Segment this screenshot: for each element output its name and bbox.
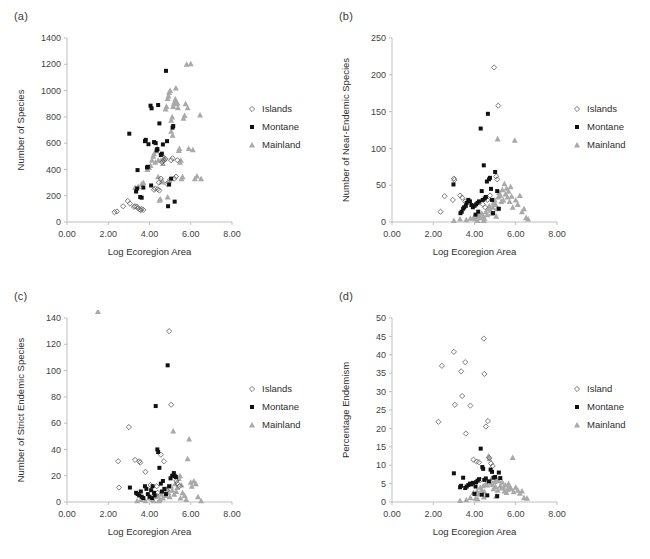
y-tick-label: 1000 — [41, 86, 61, 96]
data-point-mainland — [451, 218, 457, 224]
data-point-islands — [451, 349, 456, 354]
data-point-montane — [141, 496, 145, 500]
data-point-mainland — [506, 481, 512, 487]
y-tick-label: 100 — [371, 144, 386, 154]
legend-label-mainland: Mainland — [587, 139, 626, 150]
data-point-islands — [166, 329, 171, 334]
x-tick-label: 2.00 — [99, 229, 117, 239]
y-tick-label: 150 — [371, 107, 386, 117]
y-axis-title: Number of Near-Endemic Species — [340, 58, 351, 202]
y-tick-label: 40 — [51, 445, 61, 455]
x-tick-label: 8.00 — [223, 229, 241, 239]
y-axis-title: Percentage Endemism — [340, 362, 351, 458]
y-tick-label: 30 — [376, 387, 386, 397]
y-tick-label: 5 — [381, 479, 386, 489]
points-group — [438, 65, 531, 223]
data-point-mainland — [157, 196, 163, 202]
points-group — [95, 308, 204, 503]
data-point-islands — [452, 402, 457, 407]
data-point-montane — [167, 484, 171, 488]
data-point-mainland — [182, 113, 188, 119]
y-axis-title: Number of Strict Endemic Species — [15, 337, 26, 482]
series-mainland — [132, 61, 204, 203]
data-point-mainland — [167, 88, 173, 94]
data-point-montane — [135, 186, 139, 190]
x-tick-label: 4.00 — [141, 229, 159, 239]
data-point-montane — [473, 492, 477, 496]
series-islands — [438, 65, 501, 214]
scatter-plot-b: 0501001502002500.002.004.006.008.00Log E… — [325, 0, 650, 279]
data-point-islands — [126, 424, 131, 429]
data-point-montane — [174, 475, 178, 479]
data-point-mainland — [180, 174, 186, 180]
data-point-mainland — [249, 142, 255, 148]
data-point-montane — [480, 493, 484, 497]
x-tick-label: 6.00 — [507, 229, 525, 239]
data-point-islands — [496, 103, 501, 108]
chart-panel-d: (d) 051015202530354045500.002.004.006.00… — [325, 280, 650, 559]
data-point-mainland — [188, 61, 194, 67]
data-point-montane — [139, 489, 143, 493]
data-point-montane — [155, 147, 159, 151]
x-tick-label: 8.00 — [548, 509, 566, 519]
data-point-mainland — [197, 112, 203, 118]
y-axis-title: Number of Species — [15, 89, 26, 170]
data-point-montane — [489, 187, 493, 191]
data-point-mainland — [509, 193, 515, 199]
y-tick-label: 800 — [46, 112, 61, 122]
data-point-montane — [150, 106, 154, 110]
data-point-montane — [171, 124, 175, 128]
legend-label-montane: Montane — [262, 121, 299, 132]
legend-label-montane: Montane — [587, 401, 624, 412]
y-tick-label: 40 — [376, 350, 386, 360]
x-tick-label: 4.00 — [141, 509, 159, 519]
legend-label-mainland: Mainland — [262, 139, 301, 150]
data-point-montane — [136, 168, 140, 172]
series-montane — [451, 112, 500, 217]
data-point-montane — [157, 466, 161, 470]
data-point-islands — [468, 403, 473, 408]
y-tick-label: 0 — [56, 217, 61, 227]
data-point-montane — [165, 139, 169, 143]
data-point-montane — [161, 142, 165, 146]
series-montane — [128, 363, 178, 500]
y-tick-label: 100 — [46, 366, 61, 376]
data-point-islands — [154, 484, 159, 489]
data-point-islands — [482, 371, 487, 376]
data-point-montane — [164, 492, 168, 496]
legend-item-islands: Islands — [249, 383, 292, 394]
data-point-mainland — [512, 137, 518, 143]
data-point-montane — [128, 486, 132, 490]
y-tick-label: 15 — [376, 442, 386, 452]
data-point-islands — [574, 386, 579, 391]
data-point-montane — [495, 494, 499, 498]
data-point-montane — [154, 404, 158, 408]
data-point-mainland — [173, 85, 179, 91]
data-point-mainland — [574, 422, 580, 428]
data-point-montane — [477, 477, 481, 481]
data-point-islands — [463, 360, 468, 365]
legend-label-montane: Montane — [587, 121, 624, 132]
y-tick-label: 35 — [376, 368, 386, 378]
data-point-mainland — [249, 422, 255, 428]
data-point-montane — [493, 475, 497, 479]
legend-item-montane: Montane — [575, 121, 624, 132]
data-point-islands — [476, 460, 481, 465]
y-tick-label: 80 — [51, 392, 61, 402]
x-axis-title: Log Ecoregion Area — [108, 246, 192, 257]
data-point-islands — [439, 363, 444, 368]
data-point-montane — [498, 476, 502, 480]
series-mainland — [95, 308, 204, 503]
data-point-montane — [482, 163, 486, 167]
data-point-mainland — [574, 142, 580, 148]
y-tick-label: 20 — [51, 471, 61, 481]
data-point-montane — [151, 484, 155, 488]
data-point-montane — [452, 471, 456, 475]
legend-item-montane: Montane — [575, 401, 624, 412]
data-point-montane — [169, 177, 173, 181]
y-tick-label: 120 — [46, 339, 61, 349]
y-tick-label: 1400 — [41, 33, 61, 43]
chart-panel-c: (c) 0204060801001201400.002.004.006.008.… — [0, 280, 325, 559]
data-point-montane — [484, 195, 488, 199]
data-point-montane — [146, 165, 150, 169]
